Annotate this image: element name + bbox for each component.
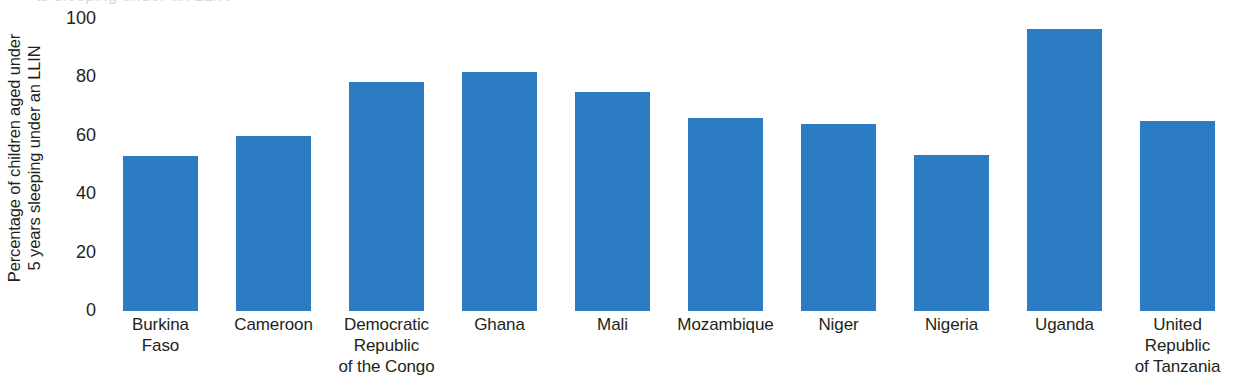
bar	[688, 118, 763, 311]
y-axis-tick-label: 100	[52, 9, 96, 27]
x-axis-tick-label-line: Niger	[782, 314, 895, 335]
y-axis-tick-label: 60	[52, 126, 96, 144]
y-axis-title-line-1: Percentage of children aged under	[5, 34, 23, 282]
x-axis-tick-label: Uganda	[1008, 314, 1121, 335]
x-axis-tick-label-line: Mozambique	[669, 314, 782, 335]
bar-slot	[123, 0, 198, 311]
x-axis-tick-label-line: Faso	[104, 335, 217, 356]
bar-slot	[462, 0, 537, 311]
bar-slot	[1140, 0, 1215, 311]
x-axis-tick-label-line: of Tanzania	[1121, 356, 1234, 377]
plot-area	[104, 0, 1238, 311]
x-axis-tick-label-line: United	[1121, 314, 1234, 335]
x-axis-tick-label-line: Nigeria	[895, 314, 1008, 335]
bar	[801, 124, 876, 311]
x-axis-tick-label-line: Mali	[556, 314, 669, 335]
x-axis-tick-label: Mozambique	[669, 314, 782, 335]
x-axis-tick-label-line: Burkina	[104, 314, 217, 335]
x-axis-tick-label: Niger	[782, 314, 895, 335]
x-axis-tick-label: UnitedRepublicof Tanzania	[1121, 314, 1234, 377]
bar-slot	[801, 0, 876, 311]
x-axis-tick-label-line: Democratic	[330, 314, 443, 335]
x-axis-tick-label-line: Cameroon	[217, 314, 330, 335]
x-axis-tick-label: Cameroon	[217, 314, 330, 335]
x-axis-tick-label: Mali	[556, 314, 669, 335]
y-axis-tick-label: 20	[52, 243, 96, 261]
bar	[462, 72, 537, 311]
y-axis-tick-label: 80	[52, 67, 96, 85]
bar-slot	[1027, 0, 1102, 311]
x-axis-tick-label: Ghana	[443, 314, 556, 335]
bar-slot	[236, 0, 311, 311]
x-axis-labels: BurkinaFasoCameroonDemocraticRepublicof …	[104, 314, 1238, 385]
x-axis-tick-label-line: Ghana	[443, 314, 556, 335]
bar	[1140, 121, 1215, 311]
bar	[1027, 29, 1102, 311]
x-axis-tick-label: Nigeria	[895, 314, 1008, 335]
bar	[236, 136, 311, 311]
x-axis-tick-label-line: Republic	[330, 335, 443, 356]
bar-slot	[575, 0, 650, 311]
y-axis-title-line-2: 5 years sleeping under an LLIN	[24, 0, 44, 316]
y-axis-tick-label: 0	[52, 301, 96, 319]
bar-chart-figure: ts sleeping under an LLIN Percentage of …	[0, 0, 1238, 385]
x-axis-tick-label: DemocraticRepublicof the Congo	[330, 314, 443, 377]
bar	[123, 156, 198, 311]
x-axis-tick-label: BurkinaFaso	[104, 314, 217, 356]
bar	[575, 92, 650, 311]
x-axis-tick-label-line: of the Congo	[330, 356, 443, 377]
bar	[914, 155, 989, 311]
bar	[349, 82, 424, 311]
bar-slot	[688, 0, 763, 311]
x-axis-tick-label-line: Uganda	[1008, 314, 1121, 335]
y-axis-ticks: 100806040200	[48, 0, 96, 385]
y-axis-tick-label: 40	[52, 184, 96, 202]
bar-slot	[349, 0, 424, 311]
x-axis-tick-label-line: Republic	[1121, 335, 1234, 356]
bar-slot	[914, 0, 989, 311]
